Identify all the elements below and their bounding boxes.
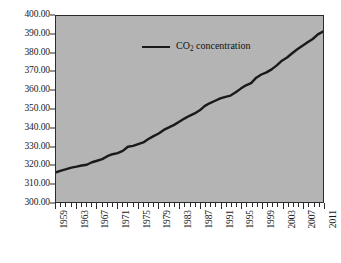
x-tick-mark-major [117,203,118,209]
x-tick-mark-minor [107,203,108,207]
x-tick-label: 1967 [100,210,110,229]
x-tick-label: 1995 [245,210,255,229]
y-tick-label: 380.00 [0,48,50,58]
x-tick-mark-minor [231,203,232,207]
x-tick-mark-major [262,203,263,209]
x-tick-label: 1987 [204,210,214,229]
y-tick-label: 300.00 [0,198,50,208]
x-tick-label: 1975 [142,210,152,229]
x-tick-mark-major [55,203,56,209]
x-tick-mark-minor [112,203,113,207]
y-tick-label: 320.00 [0,161,50,171]
x-tick-label: 1999 [266,210,276,229]
x-tick-mark-minor [164,203,165,207]
y-tick-label: 310.00 [0,179,50,189]
x-tick-label: 1983 [183,210,193,229]
plot-area: CO2 concentration [55,15,324,203]
x-tick-mark-minor [257,203,258,207]
x-tick-mark-major [179,203,180,209]
x-tick-mark-minor [272,203,273,207]
y-axis: 300.00310.00320.00330.00340.00350.00360.… [0,15,50,203]
y-tick-label: 340.00 [0,123,50,133]
x-tick-mark-minor [215,203,216,207]
x-tick-mark-minor [205,203,206,207]
x-tick-mark-minor [102,203,103,207]
x-tick-mark-minor [308,203,309,207]
x-tick-mark-major [96,203,97,209]
y-tick-label: 400.00 [0,10,50,20]
x-tick-label: 1991 [225,210,235,229]
legend-label-co2-concentration: CO2 concentration [176,41,250,52]
legend: CO2 concentration [142,41,250,52]
x-tick-label: 1959 [59,210,69,229]
x-tick-mark-minor [190,203,191,207]
x-tick-label: 1971 [121,210,131,229]
co2-concentration-chart: 300.00310.00320.00330.00340.00350.00360.… [0,0,341,263]
x-tick-mark-minor [226,203,227,207]
y-tick-label: 390.00 [0,29,50,39]
x-tick-mark-major [221,203,222,209]
x-tick-mark-minor [81,203,82,207]
x-tick-label: 2007 [307,210,317,229]
y-tick-label: 350.00 [0,104,50,114]
x-tick-mark-minor [71,203,72,207]
x-tick-mark-minor [86,203,87,207]
x-tick-mark-minor [314,203,315,207]
x-tick-label: 1979 [162,210,172,229]
x-tick-mark-minor [153,203,154,207]
x-tick-label: 2011 [328,210,338,228]
x-tick-mark-minor [143,203,144,207]
x-tick-label: 1963 [80,210,90,229]
x-tick-mark-minor [298,203,299,207]
x-tick-mark-minor [293,203,294,207]
x-tick-mark-minor [252,203,253,207]
x-tick-mark-minor [91,203,92,207]
x-tick-mark-major [138,203,139,209]
x-tick-mark-major [76,203,77,209]
x-tick-mark-minor [246,203,247,207]
y-tick-label: 360.00 [0,85,50,95]
x-tick-mark-minor [133,203,134,207]
y-tick-label: 370.00 [0,67,50,77]
x-tick-mark-minor [184,203,185,207]
x-axis: 1959196319671971197519791983198719911995… [55,210,324,260]
x-tick-mark-minor [148,203,149,207]
x-tick-label: 2003 [287,210,297,229]
x-tick-mark-minor [60,203,61,207]
x-tick-mark-major [324,203,325,209]
y-tick-label: 330.00 [0,142,50,152]
x-tick-mark-major [303,203,304,209]
x-tick-mark-minor [210,203,211,207]
x-tick-mark-minor [277,203,278,207]
x-tick-mark-minor [65,203,66,207]
x-tick-mark-major [283,203,284,209]
x-tick-mark-minor [288,203,289,207]
x-tick-mark-minor [174,203,175,207]
x-tick-mark-minor [169,203,170,207]
x-tick-mark-minor [127,203,128,207]
x-tick-mark-minor [319,203,320,207]
x-tick-mark-major [200,203,201,209]
x-tick-mark-minor [236,203,237,207]
x-tick-mark-major [158,203,159,209]
x-tick-mark-minor [267,203,268,207]
x-tick-mark-minor [195,203,196,207]
x-tick-mark-minor [122,203,123,207]
x-tick-mark-major [241,203,242,209]
legend-line-swatch [142,46,170,48]
